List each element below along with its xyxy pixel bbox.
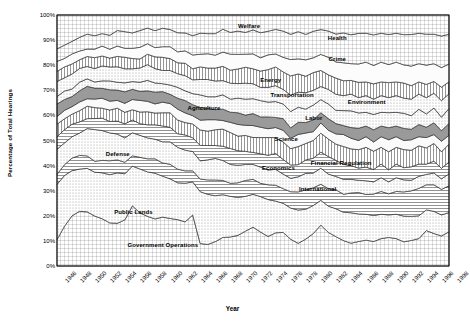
area-series-label: Health bbox=[328, 35, 347, 41]
area-series-label: Labor bbox=[305, 115, 322, 121]
area-series-label: Defense bbox=[106, 151, 130, 157]
area-series-label: Crime bbox=[329, 56, 347, 62]
area-series-label: Transportation bbox=[270, 92, 313, 98]
area-series-label: Energy bbox=[260, 77, 281, 83]
area-series-layer bbox=[57, 15, 449, 266]
area-series-label: Welfare bbox=[238, 23, 260, 29]
area-series-label: Economics bbox=[262, 165, 295, 171]
area-series-label: Financial Regulation bbox=[311, 160, 372, 166]
area-series-label: Agriculture bbox=[187, 105, 220, 111]
area-series-label: Public Lands bbox=[114, 209, 153, 215]
area-series-label: International bbox=[299, 186, 336, 192]
area-series-label: Government Operations bbox=[127, 242, 198, 248]
area-series-label: Science bbox=[275, 136, 298, 142]
area-series-label: Environment bbox=[348, 99, 386, 105]
